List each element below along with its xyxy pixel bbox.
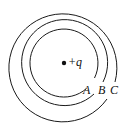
point-charge-dot bbox=[62, 61, 66, 65]
surface-b-label: B bbox=[98, 84, 105, 96]
concentric-circles bbox=[0, 0, 127, 130]
surface-a-label: A bbox=[83, 84, 90, 96]
equipotential-diagram: +q A B C bbox=[0, 0, 127, 130]
charge-label: +q bbox=[68, 56, 82, 68]
surface-c-label: C bbox=[110, 84, 118, 96]
